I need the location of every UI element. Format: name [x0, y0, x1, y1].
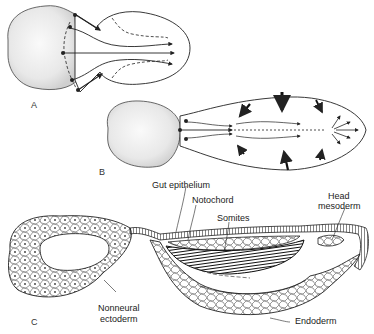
label-notochord: Notochord — [192, 195, 234, 205]
label-gut-epithelium: Gut epithelium — [152, 180, 210, 190]
panel-c-section — [8, 216, 368, 315]
label-endoderm: Endoderm — [295, 316, 337, 326]
label-ectoderm: ectoderm — [100, 314, 138, 324]
embryo-diagram — [0, 0, 374, 334]
panel-b-yolk — [107, 101, 180, 167]
label-somites: Somites — [217, 213, 250, 223]
panel-b-embryo — [107, 92, 366, 170]
panel-label-a: A — [31, 100, 37, 110]
panel-label-b: B — [99, 167, 105, 177]
panel-label-c: C — [31, 317, 38, 327]
head-mesoderm — [318, 235, 344, 246]
nonneural-ectoderm-ring — [8, 216, 131, 297]
panel-a-yolk — [8, 6, 78, 90]
label-mesoderm: mesoderm — [318, 201, 361, 211]
label-head: Head — [328, 191, 350, 201]
label-nonneural: Nonneural — [98, 303, 140, 313]
panel-a-embryo — [8, 6, 190, 92]
